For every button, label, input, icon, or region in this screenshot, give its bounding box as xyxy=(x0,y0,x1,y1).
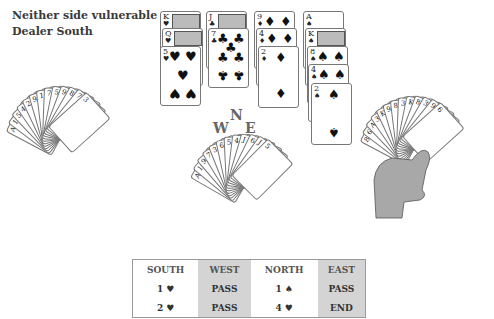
heart-icon: ♥ xyxy=(165,38,171,45)
card-index: 5 xyxy=(263,142,272,151)
card-index: 3 xyxy=(81,95,90,104)
heart-icon: ♥ xyxy=(169,50,181,63)
face-card-art xyxy=(218,14,246,29)
deal-info: Neither side vulnerable Dealer South xyxy=(12,8,157,40)
bid-cell: PASS xyxy=(198,279,250,298)
bid-cell: PASS xyxy=(318,279,366,298)
club-icon: ♣ xyxy=(233,69,245,82)
spade-icon: ♠ xyxy=(334,68,346,81)
heart-icon: ♥ xyxy=(185,50,197,63)
spade-icon: ♠ xyxy=(333,50,345,63)
card-heart-five[interactable]: 5♥ ♥ ♥ ♥ ♥ ♥ xyxy=(160,46,201,106)
bid-cell: 1 ♠ xyxy=(251,279,318,298)
card-diamond-two[interactable]: 2♦ ♦ ♦ xyxy=(258,46,299,108)
diamond-icon: ♦ xyxy=(282,32,294,45)
face-card-art xyxy=(174,31,202,46)
bid-row: 1 ♥ PASS 1 ♠ PASS xyxy=(133,279,366,298)
diamond-icon: ♦ xyxy=(275,87,287,100)
diamond-icon: ♦ xyxy=(259,38,265,45)
spade-icon: ♠ xyxy=(311,74,317,81)
spade-icon: ♠ xyxy=(308,38,314,45)
club-icon: ♣ xyxy=(217,69,229,82)
face-card-art xyxy=(317,31,345,46)
bidding-table: SOUTH WEST NORTH EAST 1 ♥ PASS 1 ♠ PASS … xyxy=(132,259,366,318)
club-icon: ♣ xyxy=(217,51,229,64)
diamond-icon: ♦ xyxy=(261,56,267,63)
compass-north: N xyxy=(230,107,243,123)
hand-illustration xyxy=(370,140,440,220)
header-north: NORTH xyxy=(251,260,318,280)
heart-icon: ♥ xyxy=(177,69,189,82)
header-south: SOUTH xyxy=(133,260,199,280)
diamond-icon: ♦ xyxy=(280,15,292,28)
diamond-icon: ♦ xyxy=(275,51,287,64)
spade-icon: ♠ xyxy=(328,126,340,139)
bid-cell: 2 ♥ xyxy=(133,298,199,318)
club-icon: ♣ xyxy=(209,21,215,28)
heart-icon: ♥ xyxy=(163,21,169,28)
compass-west: W xyxy=(213,120,229,136)
bid-row: 2 ♥ PASS 4 ♥ END xyxy=(133,298,366,318)
spade-icon: ♠ xyxy=(306,21,312,28)
face-card-art xyxy=(172,14,200,29)
heart-icon: ♥ xyxy=(169,87,181,100)
vulnerability-label: Neither side vulnerable xyxy=(12,8,157,24)
heart-icon: ♥ xyxy=(185,87,197,100)
diamond-icon: ♦ xyxy=(266,32,278,45)
spade-icon: ♠ xyxy=(314,93,320,100)
header-east: EAST xyxy=(318,260,366,280)
bid-cell: END xyxy=(318,298,366,318)
bid-cell: PASS xyxy=(198,298,250,318)
dealer-label: Dealer South xyxy=(12,24,157,40)
club-icon: ♣ xyxy=(233,51,245,64)
spade-icon: ♠ xyxy=(310,56,316,63)
header-west: WEST xyxy=(198,260,250,280)
card-index: 6 xyxy=(435,105,444,114)
spade-icon: ♠ xyxy=(318,68,330,81)
diamond-icon: ♦ xyxy=(257,21,263,28)
bid-cell: 1 ♥ xyxy=(133,279,199,298)
bid-cell: 4 ♥ xyxy=(251,298,318,318)
card-spade-two[interactable]: 2♠ ♠ ♠ xyxy=(311,83,352,145)
spade-icon: ♠ xyxy=(317,50,329,63)
card-club-seven[interactable]: 7♣ ♣ ♣ ♣ ♣ ♣ ♣ ♣ xyxy=(208,28,249,88)
spade-icon: ♠ xyxy=(328,88,340,101)
diamond-icon: ♦ xyxy=(264,15,276,28)
